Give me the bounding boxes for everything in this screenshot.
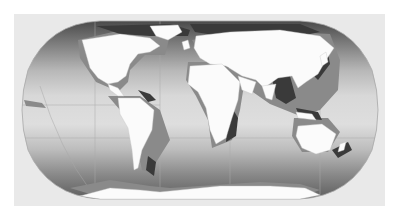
world-map bbox=[0, 0, 394, 221]
